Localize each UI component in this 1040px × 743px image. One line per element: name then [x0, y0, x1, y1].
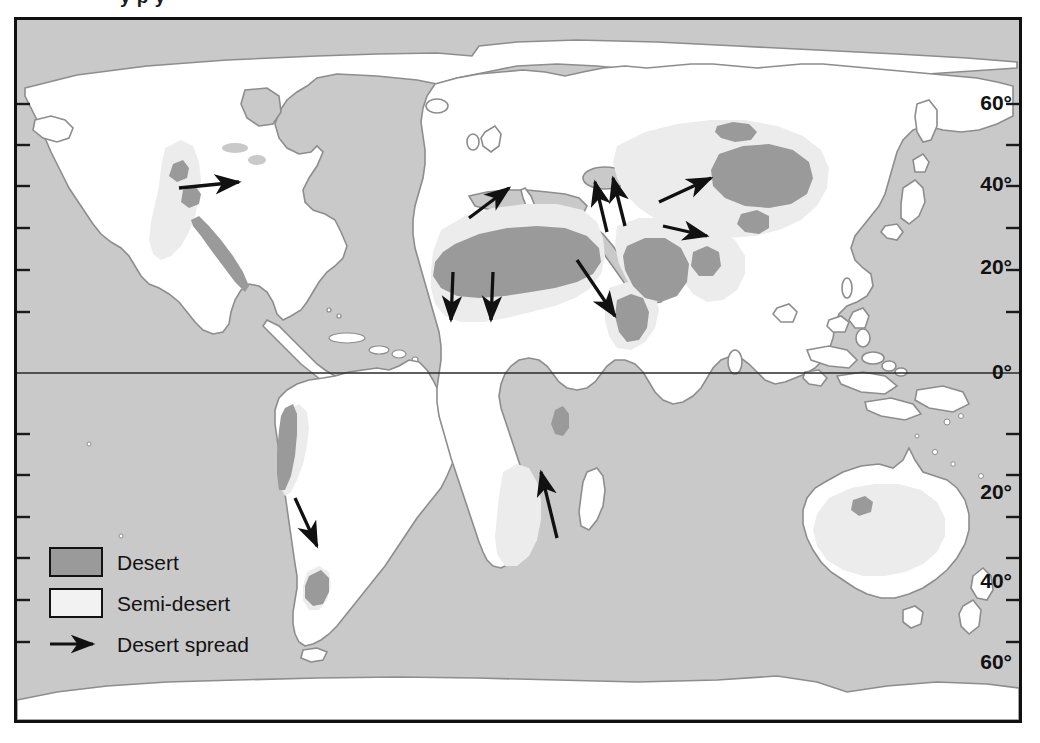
lat-label-20s: 20° [980, 480, 1012, 504]
lat-label-40n: 40° [980, 172, 1012, 196]
land-kamchatka [915, 100, 937, 142]
legend-label-desert: Desert [117, 552, 179, 573]
legend-item-desert-spread: Desert spread [49, 629, 249, 659]
lat-label-40s: 40° [980, 569, 1012, 593]
lat-label-60s: 60° [980, 650, 1012, 674]
arrow-sahel-west-south [451, 272, 453, 320]
map-legend: Desert Semi-desert Desert spread [49, 547, 249, 659]
legend-label-desert-spread: Desert spread [117, 634, 249, 655]
desert-swatch-icon [49, 547, 103, 577]
desert-spread-arrow-icon [49, 629, 103, 659]
desert-gobi [711, 144, 813, 208]
land-tierra-del-fuego [301, 648, 327, 662]
legend-label-semi-desert: Semi-desert [117, 593, 230, 614]
land-tasmania [903, 606, 923, 628]
land-taiwan [842, 278, 852, 298]
land-iceland [426, 99, 448, 113]
world-map-frame: Desert Semi-desert Desert spread [14, 17, 1022, 723]
legend-item-desert: Desert [49, 547, 249, 577]
map-page: y p y [0, 0, 1040, 743]
lat-label-equator: 0° [992, 360, 1012, 384]
cropped-caption-text: y p y [0, 0, 1040, 14]
semi-desert-swatch-icon [49, 588, 103, 618]
legend-item-semi-desert: Semi-desert [49, 588, 249, 618]
arrow-sahel-central-south [491, 272, 493, 320]
land-sri-lanka [728, 350, 742, 374]
lat-label-60n: 60° [980, 91, 1012, 115]
lat-label-20n: 20° [980, 255, 1012, 279]
